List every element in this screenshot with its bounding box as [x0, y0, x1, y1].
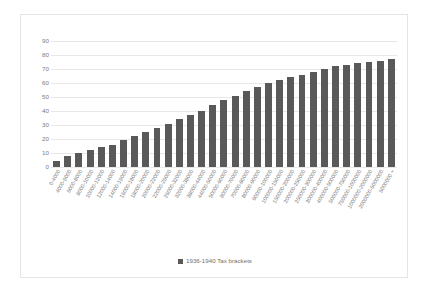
- y-axis-tick-label: 20: [27, 136, 49, 142]
- x-axis: 0-40004000-60006000-80008000-1000010000-…: [51, 167, 397, 257]
- y-axis-tick-label: 50: [27, 94, 49, 100]
- bar-slot: [174, 41, 185, 167]
- x-axis-label-slot: 5000000 +: [386, 167, 397, 257]
- chart-container: 9080706050403020100 0-40004000-60006000-…: [20, 14, 408, 278]
- bar-slot: [129, 41, 140, 167]
- y-axis-tick-label: 40: [27, 108, 49, 114]
- bar[interactable]: [209, 105, 216, 167]
- bar-slot: [319, 41, 330, 167]
- bar[interactable]: [198, 111, 205, 167]
- bar[interactable]: [142, 132, 149, 167]
- bar[interactable]: [75, 153, 82, 167]
- bar[interactable]: [98, 147, 105, 167]
- y-axis-tick-label: 30: [27, 122, 49, 128]
- bar[interactable]: [354, 63, 361, 167]
- bar-slot: [375, 41, 386, 167]
- bar[interactable]: [176, 119, 183, 167]
- bar[interactable]: [388, 59, 395, 167]
- bar-slot: [118, 41, 129, 167]
- bar-slot: [163, 41, 174, 167]
- bar[interactable]: [154, 128, 161, 167]
- y-axis-tick-label: 70: [27, 66, 49, 72]
- bar-slot: [285, 41, 296, 167]
- bar[interactable]: [265, 83, 272, 167]
- bar[interactable]: [87, 150, 94, 167]
- bar-slot: [386, 41, 397, 167]
- legend-label: 1936-1940 Tax brackets: [186, 258, 252, 264]
- bar-slot: [241, 41, 252, 167]
- bar-slot: [218, 41, 229, 167]
- bar-slot: [363, 41, 374, 167]
- bar[interactable]: [276, 80, 283, 167]
- bar[interactable]: [310, 72, 317, 167]
- bar[interactable]: [64, 156, 71, 167]
- bar-series: [51, 41, 397, 167]
- bar-slot: [341, 41, 352, 167]
- bar[interactable]: [321, 69, 328, 167]
- bar-slot: [296, 41, 307, 167]
- bar-slot: [73, 41, 84, 167]
- legend-swatch-icon: [178, 259, 183, 264]
- bar-slot: [196, 41, 207, 167]
- bar[interactable]: [254, 87, 261, 167]
- bar[interactable]: [377, 61, 384, 167]
- bar-slot: [330, 41, 341, 167]
- bar[interactable]: [120, 140, 127, 167]
- bar-slot: [185, 41, 196, 167]
- bar-slot: [274, 41, 285, 167]
- chart-legend: 1936-1940 Tax brackets: [21, 258, 409, 264]
- bar-slot: [140, 41, 151, 167]
- bar[interactable]: [343, 65, 350, 167]
- bar[interactable]: [299, 75, 306, 167]
- y-axis-tick-label: 80: [27, 52, 49, 58]
- bar[interactable]: [220, 100, 227, 167]
- bar[interactable]: [232, 96, 239, 167]
- y-axis: 9080706050403020100: [27, 41, 49, 167]
- bar[interactable]: [165, 124, 172, 167]
- bar-slot: [352, 41, 363, 167]
- bar[interactable]: [131, 136, 138, 167]
- bar-slot: [308, 41, 319, 167]
- plot-area: [51, 41, 397, 167]
- bar-slot: [263, 41, 274, 167]
- y-axis-tick-label: 0: [27, 164, 49, 170]
- bar-slot: [252, 41, 263, 167]
- bar[interactable]: [187, 115, 194, 167]
- bar-slot: [96, 41, 107, 167]
- bar-slot: [230, 41, 241, 167]
- bar-slot: [51, 41, 62, 167]
- chart-plot-wrapper: 9080706050403020100 0-40004000-60006000-…: [21, 15, 409, 279]
- y-axis-tick-label: 90: [27, 38, 49, 44]
- bar-slot: [62, 41, 73, 167]
- bar-slot: [151, 41, 162, 167]
- bar-slot: [207, 41, 218, 167]
- y-axis-tick-label: 10: [27, 150, 49, 156]
- y-axis-tick-label: 60: [27, 80, 49, 86]
- bar[interactable]: [287, 77, 294, 167]
- bar[interactable]: [109, 145, 116, 167]
- bar[interactable]: [332, 66, 339, 167]
- bar[interactable]: [366, 62, 373, 167]
- bar-slot: [107, 41, 118, 167]
- bar-slot: [84, 41, 95, 167]
- bar[interactable]: [243, 91, 250, 167]
